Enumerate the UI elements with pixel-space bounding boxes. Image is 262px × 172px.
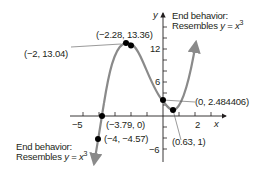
tick-label-neg6: −6 bbox=[149, 145, 159, 155]
tick-label-12: 12 bbox=[150, 44, 160, 54]
tick-label-neg5: −5 bbox=[72, 120, 82, 130]
point-root bbox=[99, 113, 105, 119]
x-axis bbox=[70, 112, 226, 116]
end-behavior-bottom-left: End behavior: Resembles y = x3 bbox=[16, 142, 87, 162]
point-m4 bbox=[95, 136, 101, 142]
y-axis-label: y bbox=[153, 10, 158, 20]
x-axis-label: x bbox=[214, 119, 219, 129]
y-axis-ticks bbox=[163, 27, 167, 149]
tick-label-6: 6 bbox=[155, 77, 160, 87]
label-point-m2: (−2, 13.04) bbox=[24, 49, 68, 59]
point-min bbox=[170, 107, 176, 113]
end-behavior-expr: Resembles y = x3 bbox=[16, 152, 87, 162]
label-point-min: (0.63, 1) bbox=[172, 137, 206, 147]
y-axis bbox=[163, 13, 167, 162]
label-point-max: (−2.28, 13.36) bbox=[96, 30, 153, 40]
point-m2 bbox=[128, 43, 134, 49]
label-point-yint: (0, 2.484406) bbox=[195, 97, 249, 107]
label-point-m4: (−4, −4.57) bbox=[104, 134, 148, 144]
end-behavior-top-right: End behavior: Resembles y = x3 bbox=[172, 11, 243, 31]
label-point-root: (−3.79, 0) bbox=[106, 120, 145, 130]
end-behavior-expr: Resembles y = x3 bbox=[172, 21, 243, 31]
tick-label-2: 2 bbox=[195, 120, 200, 130]
point-yint bbox=[160, 97, 166, 103]
